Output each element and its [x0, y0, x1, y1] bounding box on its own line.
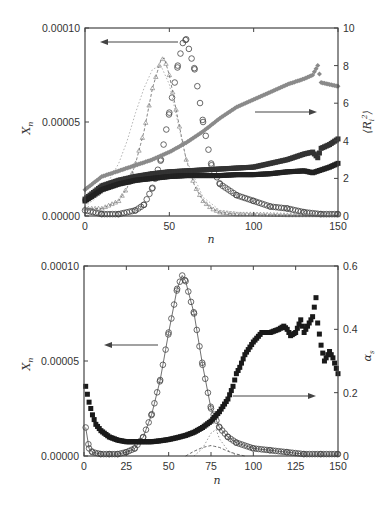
data-point — [330, 355, 335, 360]
data-point — [315, 155, 320, 160]
data-point — [195, 83, 201, 89]
series — [83, 295, 340, 444]
y-left-tick-label: 0.00000 — [41, 450, 79, 462]
data-point — [197, 193, 201, 197]
x-tick-label: 50 — [163, 220, 175, 232]
data-point — [161, 142, 167, 148]
x-tick-label: 125 — [287, 460, 305, 472]
series-line — [186, 446, 245, 456]
data-point — [186, 46, 192, 52]
y-right-tick-label: 2 — [343, 172, 349, 184]
y-right-tick-label: 0 — [343, 210, 349, 222]
series — [186, 446, 245, 456]
y-right-tick-label: 0.2 — [343, 387, 358, 399]
bottom-panel: 02550751001251500.000000.000050.0001000.… — [20, 260, 376, 487]
y-right-tick-label: 8 — [343, 60, 349, 72]
bottom-axis-ticks: 02550751001251500.000000.000050.0001000.… — [41, 260, 358, 472]
data-point — [87, 400, 92, 405]
bottom-plot-frame — [84, 266, 338, 456]
top-y-left-axis-label: Xn — [20, 122, 35, 136]
series — [83, 273, 341, 457]
data-point — [92, 417, 97, 422]
x-tick-label: 0 — [81, 460, 87, 472]
data-point — [197, 100, 203, 106]
bottom-x-axis-label: n — [213, 474, 220, 487]
x-tick-label: 25 — [120, 460, 132, 472]
data-point — [172, 80, 178, 86]
data-point — [90, 412, 95, 417]
bottom-plot-area — [83, 273, 341, 457]
data-point — [163, 127, 169, 133]
top-y-right-axis-label: ⟨Ri2⟩ — [361, 110, 376, 134]
data-point — [147, 191, 153, 197]
top-left-arrow — [100, 39, 178, 45]
y-right-tick-label: 0.4 — [343, 323, 358, 335]
data-point — [144, 197, 150, 203]
y-left-tick-label: 0.00010 — [41, 260, 79, 272]
data-point — [232, 378, 237, 383]
data-point — [85, 392, 90, 397]
x-tick-label: 50 — [163, 460, 175, 472]
y-right-tick-label: 4 — [343, 135, 349, 147]
data-point — [320, 351, 325, 356]
data-point — [203, 133, 209, 139]
x-tick-label: 75 — [205, 460, 217, 472]
data-point — [332, 361, 337, 366]
y-right-tick-label: 10 — [343, 22, 355, 34]
data-point — [317, 332, 322, 337]
bottom-right-arrow — [233, 393, 316, 399]
bottom-y-left-axis-label: Xn — [20, 358, 35, 372]
data-point — [317, 72, 322, 77]
y-right-tick-label: 0 — [343, 450, 349, 462]
top-plot-frame — [85, 28, 338, 216]
bottom-left-arrow — [104, 342, 158, 348]
x-tick-label: 100 — [245, 220, 263, 232]
data-point — [310, 314, 315, 319]
y-right-tick-label: 0.6 — [343, 260, 358, 272]
y-left-tick-label: 0.00005 — [41, 355, 79, 367]
bottom-y-right-axis-label: αs — [361, 350, 376, 361]
series — [85, 66, 338, 215]
data-point — [317, 151, 322, 156]
y-left-tick-label: 0.00005 — [42, 116, 80, 128]
data-point — [319, 343, 324, 348]
data-point — [88, 406, 93, 411]
data-point — [313, 295, 318, 300]
x-tick-label: 0 — [82, 220, 88, 232]
top-panel: 0501001500.000000.000050.000100246810 n … — [20, 22, 376, 246]
data-point — [315, 321, 320, 326]
y-left-tick-label: 0.00010 — [42, 22, 80, 34]
series-line — [85, 66, 338, 215]
top-plot-area — [82, 36, 341, 216]
data-point — [312, 305, 317, 310]
top-x-axis-label: n — [207, 233, 214, 246]
top-right-arrow — [255, 109, 317, 115]
data-point — [206, 147, 212, 153]
data-point — [231, 384, 236, 389]
fit-line — [86, 276, 338, 455]
data-point — [178, 51, 184, 57]
figure: 0501001500.000000.000050.000100246810 n … — [0, 0, 386, 506]
y-right-tick-label: 6 — [343, 97, 349, 109]
x-tick-label: 100 — [245, 460, 263, 472]
data-point — [189, 56, 195, 62]
y-left-tick-label: 0.00000 — [42, 210, 80, 222]
data-point — [298, 317, 303, 322]
